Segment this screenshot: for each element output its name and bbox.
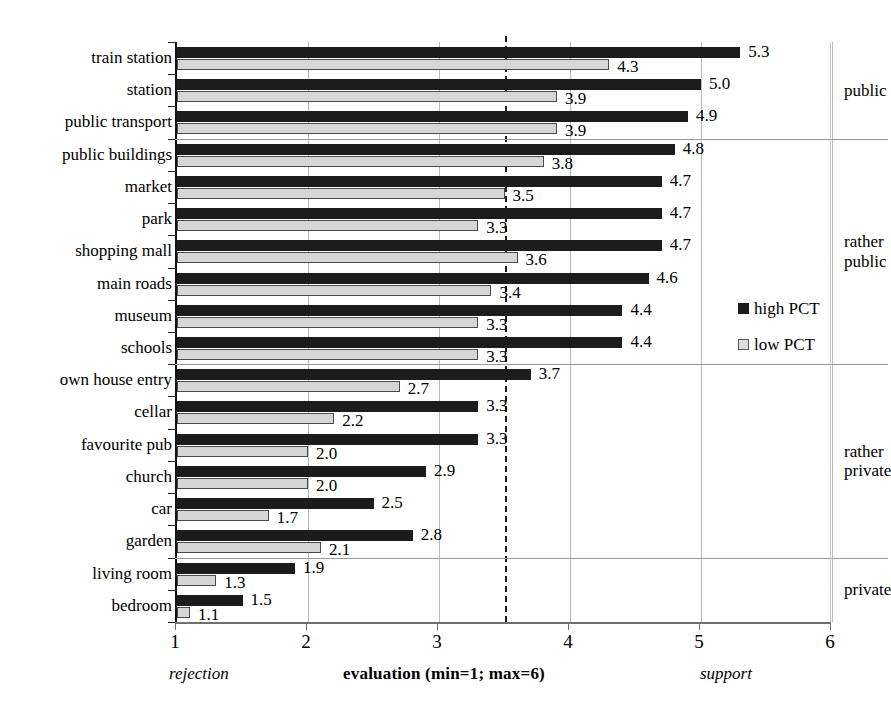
y-axis-tick: [168, 106, 175, 107]
value-label-low-pct: 1.7: [277, 509, 298, 526]
value-label-high-pct: 2.5: [382, 494, 403, 511]
x-tick-1: [175, 622, 176, 630]
group-label-line: public: [844, 252, 887, 272]
value-label-low-pct: 3.9: [565, 90, 586, 107]
value-label-low-pct: 3.8: [552, 155, 573, 172]
plot-area: 5.34.35.03.94.93.94.83.84.73.54.73.34.73…: [175, 42, 832, 622]
bar-row: 1.91.3: [177, 558, 832, 590]
legend-swatch-low-pct-icon: [738, 339, 749, 350]
x-tick-label: 5: [694, 632, 704, 651]
bar-row: 4.73.5: [177, 171, 832, 203]
category-label: train station: [2, 49, 172, 66]
bar-row: 3.32.0: [177, 429, 832, 461]
legend-label-high-pct: high PCT: [754, 300, 820, 317]
x-tick-label: 2: [301, 632, 311, 651]
value-label-low-pct: 3.3: [486, 316, 507, 333]
group-label-line: rather: [844, 232, 887, 252]
value-label-low-pct: 1.3: [224, 574, 245, 591]
x-axis-line: [175, 622, 830, 624]
value-label-high-pct: 3.3: [486, 397, 507, 414]
value-label-high-pct: 2.9: [434, 462, 455, 479]
value-label-high-pct: 2.8: [421, 526, 442, 543]
bar-low-pct: [177, 123, 557, 134]
bar-row: 4.43.3: [177, 300, 832, 332]
group-label-rather-private: ratherprivate: [844, 442, 891, 481]
x-tick-5: [699, 622, 700, 630]
category-label: market: [2, 178, 172, 195]
y-axis-tick: [168, 396, 175, 397]
value-label-high-pct: 4.4: [630, 333, 651, 350]
y-axis-tick: [168, 42, 175, 43]
x-tick-3: [437, 622, 438, 630]
bar-high-pct: [177, 47, 740, 58]
category-label: cellar: [2, 403, 172, 420]
category-label: favourite pub: [2, 436, 172, 453]
bar-high-pct: [177, 79, 701, 90]
bar-low-pct: [177, 607, 190, 618]
bar-low-pct: [177, 478, 308, 489]
bar-high-pct: [177, 111, 688, 122]
bar-row: 2.51.7: [177, 493, 832, 525]
bar-high-pct: [177, 176, 662, 187]
bar-high-pct: [177, 208, 662, 219]
bar-low-pct: [177, 446, 308, 457]
bar-high-pct: [177, 273, 649, 284]
bar-row: 1.51.1: [177, 590, 832, 622]
value-label-high-pct: 5.3: [748, 43, 769, 60]
bar-low-pct: [177, 349, 478, 360]
group-label-line: public: [844, 81, 887, 101]
bar-row: 4.63.4: [177, 268, 832, 300]
value-label-high-pct: 4.4: [630, 301, 651, 318]
value-label-high-pct: 4.7: [670, 236, 691, 253]
x-tick-2: [306, 622, 307, 630]
bar-low-pct: [177, 220, 478, 231]
value-label-high-pct: 4.6: [657, 269, 678, 286]
group-label-public: public: [844, 81, 887, 101]
value-label-low-pct: 2.2: [342, 412, 363, 429]
value-label-high-pct: 4.7: [670, 204, 691, 221]
bar-low-pct: [177, 156, 544, 167]
bar-row: 2.92.0: [177, 461, 832, 493]
category-label: main roads: [2, 275, 172, 292]
bar-high-pct: [177, 530, 413, 541]
y-axis-tick: [168, 461, 175, 462]
x-axis-title: evaluation (min=1; max=6): [0, 664, 888, 684]
y-axis-tick: [168, 74, 175, 75]
bar-high-pct: [177, 337, 622, 348]
value-label-low-pct: 3.3: [486, 219, 507, 236]
y-axis-tick: [168, 139, 175, 140]
group-separator: [175, 139, 888, 140]
bar-high-pct: [177, 144, 675, 155]
y-axis-tick: [168, 493, 175, 494]
category-label: public buildings: [2, 146, 172, 163]
x-tick-label: 4: [563, 632, 573, 651]
bar-low-pct: [177, 575, 216, 586]
bar-low-pct: [177, 91, 557, 102]
bar-row: 4.73.6: [177, 235, 832, 267]
bar-row: 2.82.1: [177, 525, 832, 557]
y-axis-tick: [168, 558, 175, 559]
category-axis-labels: train stationstationpublic transportpubl…: [0, 42, 172, 622]
bar-low-pct: [177, 510, 269, 521]
bar-high-pct: [177, 401, 478, 412]
category-label: schools: [2, 339, 172, 356]
category-label: car: [2, 500, 172, 517]
value-label-low-pct: 2.7: [408, 380, 429, 397]
category-label: station: [2, 81, 172, 98]
group-label-line: rather: [844, 442, 891, 462]
value-label-low-pct: 3.3: [486, 348, 507, 365]
group-label-line: private: [844, 461, 891, 481]
bar-row: 4.83.8: [177, 139, 832, 171]
value-label-high-pct: 1.5: [251, 591, 272, 608]
y-axis-tick: [168, 364, 175, 365]
value-label-high-pct: 4.7: [670, 172, 691, 189]
y-axis-tick: [168, 525, 175, 526]
category-label: bedroom: [2, 597, 172, 614]
bar-high-pct: [177, 305, 622, 316]
group-separator: [175, 558, 888, 559]
chart-legend: high PCT low PCT: [738, 300, 888, 372]
bar-high-pct: [177, 369, 531, 380]
y-axis-tick: [168, 300, 175, 301]
value-label-low-pct: 2.0: [316, 477, 337, 494]
bar-high-pct: [177, 563, 295, 574]
